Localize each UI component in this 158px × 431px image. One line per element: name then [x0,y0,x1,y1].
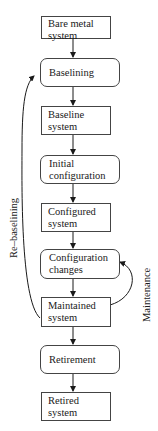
node-bare-metal-system: Bare metal system [41,16,111,39]
node-initial-configuration: Initial configuration [40,155,120,184]
rebaselining-label: Re–baselining [8,198,19,258]
node-configured-system: Configured system [41,203,111,232]
node-baseline-system: Baseline system [41,106,111,135]
maintenance-label: Maintenance [141,268,152,322]
node-retirement: Retirement [40,345,120,374]
node-configuration-changes: Configuration changes [40,249,120,279]
rebaselining-loop-arrow [22,76,40,318]
node-retired-system: Retired system [41,392,111,421]
node-maintained-system: Maintained system [41,297,111,327]
node-baselining: Baselining [40,58,120,87]
